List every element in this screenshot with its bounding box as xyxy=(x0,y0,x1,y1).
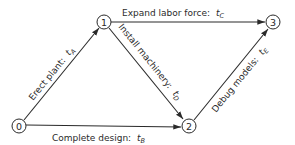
edge-label-expand-labor-force: Expand labor force: tC xyxy=(122,8,224,20)
node-label: 3 xyxy=(270,17,276,28)
arrow-2-to-3 xyxy=(194,29,268,120)
node-2: 2 xyxy=(182,119,196,133)
edge-debug-models: Debug models: tE xyxy=(194,29,271,120)
edge-label-erect-plant: Erect plant: tA xyxy=(27,45,78,104)
activity-name: Erect plant: xyxy=(27,56,68,103)
edge-complete-design: Complete design: tB xyxy=(26,125,181,145)
node-1: 1 xyxy=(97,15,111,29)
node-label: 2 xyxy=(186,121,192,132)
edge-expand-labor-force: Expand labor force: tC xyxy=(111,8,265,22)
edge-label-debug-models: Debug models: tE xyxy=(210,44,271,116)
node-0: 0 xyxy=(12,119,26,133)
activity-name: Complete design: xyxy=(52,133,131,143)
activity-name: Expand labor force: xyxy=(122,8,210,18)
time-subscript: C xyxy=(219,12,224,20)
node-3: 3 xyxy=(266,15,280,29)
arrow-0-to-1 xyxy=(24,28,99,120)
arrow-0-to-2 xyxy=(26,125,181,127)
time-subscript: B xyxy=(141,137,146,145)
edge-label-install-machinery: Install machinery: tD xyxy=(115,22,184,103)
activity-name: Install machinery: xyxy=(116,22,174,90)
activity-name: Debug models: xyxy=(210,55,261,114)
arrow-1-to-2 xyxy=(109,28,183,119)
node-label: 0 xyxy=(16,121,22,132)
edge-label-complete-design: Complete design: tB xyxy=(52,133,146,145)
node-label: 1 xyxy=(101,17,107,28)
edge-install-machinery: Install machinery: tD xyxy=(109,22,184,119)
activity-network-diagram: Erect plant: tA Expand labor force: tC I… xyxy=(0,0,295,145)
edge-erect-plant: Erect plant: tA xyxy=(24,28,99,120)
